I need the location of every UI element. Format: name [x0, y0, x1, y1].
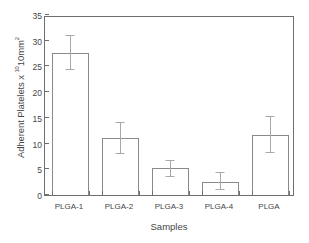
error-bar-cap-upper [216, 172, 225, 173]
x-axis-tick-mark [152, 191, 153, 195]
x-axis-tick-label: PLGA-3 [155, 202, 183, 211]
chart-figure: Adherent Platelets x 1010mm2 05101520253… [0, 0, 309, 243]
y-axis-tick-mark [45, 65, 49, 66]
x-axis-tick-mark [102, 191, 103, 195]
x-axis-tick-label: PLGA-1 [55, 202, 83, 211]
x-axis-tick-mark [139, 191, 140, 195]
y-axis-tick-label: 10 [20, 140, 42, 150]
x-axis-title: Samples [44, 221, 294, 232]
y-axis-tick-mark [45, 40, 49, 41]
x-axis-tick-mark [289, 191, 290, 195]
y-axis-tick-label: 15 [20, 114, 42, 124]
error-bar [220, 173, 221, 190]
error-bar-cap-lower [266, 152, 275, 153]
y-axis-tick-mark [45, 91, 49, 92]
error-bar [120, 123, 121, 154]
plot-area [44, 16, 294, 196]
x-axis-tick-label: PLGA-4 [205, 202, 233, 211]
error-bar-cap-lower [66, 69, 75, 70]
y-axis-tick-mark [45, 117, 49, 118]
error-bar [270, 117, 271, 154]
y-axis-tick-label: 5 [20, 165, 42, 175]
y-axis-tick-label: 20 [20, 88, 42, 98]
error-bar-cap-lower [116, 153, 125, 154]
error-bar-cap-upper [266, 116, 275, 117]
x-axis-tick-mark [52, 191, 53, 195]
error-bar-cap-upper [116, 122, 125, 123]
x-axis-tick-label: PLGA [258, 202, 279, 211]
y-axis-tick-mark [45, 14, 49, 15]
error-bar-cap-upper [166, 160, 175, 161]
y-axis-tick-label: 30 [20, 37, 42, 47]
error-bar-cap-lower [216, 189, 225, 190]
x-axis-tick-mark [252, 191, 253, 195]
y-axis-tick-mark [45, 194, 49, 195]
y-axis-tick-label: 0 [20, 191, 42, 201]
bar [52, 53, 89, 195]
x-axis-tick-label: PLGA-2 [105, 202, 133, 211]
y-axis-tick-label: 25 [20, 62, 42, 72]
error-bar-cap-upper [66, 35, 75, 36]
y-axis-tick-mark [45, 168, 49, 169]
y-axis-tick-labels: 05101520253035 [18, 0, 42, 243]
x-axis-tick-mark [202, 191, 203, 195]
x-axis-tick-mark [239, 191, 240, 195]
y-axis-tick-mark [45, 143, 49, 144]
x-axis-tick-mark [89, 191, 90, 195]
x-axis-tick-mark [189, 191, 190, 195]
error-bar-cap-lower [166, 176, 175, 177]
error-bar [70, 36, 71, 70]
error-bar [170, 161, 171, 177]
y-axis-tick-label: 35 [20, 11, 42, 21]
